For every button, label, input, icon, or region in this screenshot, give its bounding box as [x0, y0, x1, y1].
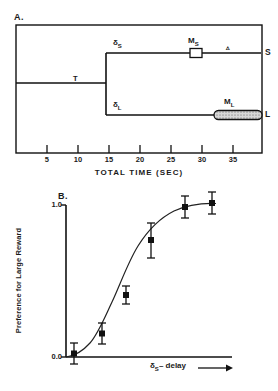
- small-reward-label: MS: [188, 36, 199, 47]
- upper-delay-label: δS: [113, 38, 122, 49]
- figure-container: A.: [0, 0, 278, 391]
- xtick-label-a-2: 15: [99, 155, 119, 164]
- data-point: [123, 292, 129, 298]
- xtick-label-a-1: 10: [68, 155, 88, 164]
- data-point: [209, 200, 215, 206]
- ytick-label-top: 1.0: [40, 200, 62, 209]
- panel-b-xaxis-title: δS– delay: [150, 361, 186, 372]
- large-reward-label: ML: [224, 97, 234, 108]
- data-point: [182, 204, 188, 210]
- xaxis-arrow-icon: [198, 365, 233, 372]
- xtick-label-a-4: 25: [161, 155, 181, 164]
- data-point: [99, 331, 105, 337]
- panel-b: B.: [0, 186, 278, 391]
- panel-a-xticks: [47, 145, 233, 153]
- xtick-label-a-6: 35: [223, 155, 243, 164]
- error-bars: [70, 192, 216, 364]
- xtick-label-a-0: 5: [37, 155, 57, 164]
- trunk-label: T: [73, 74, 78, 83]
- data-point: [148, 237, 154, 243]
- xtick-label-a-3: 20: [130, 155, 150, 164]
- triangle-marker-icon: ▵: [226, 44, 230, 52]
- small-reward-box: [190, 49, 202, 58]
- ytick-label-bottom: 0.0: [40, 352, 62, 361]
- panel-a-xaxis-title: TOTAL TIME (SEC): [0, 168, 278, 177]
- panel-b-yaxis-title: Preference for Large Reward: [14, 211, 23, 351]
- preference-curve: [66, 203, 216, 357]
- data-point: [71, 351, 77, 357]
- lower-endpoint-label: L: [265, 109, 270, 119]
- upper-endpoint-label: S: [265, 47, 271, 57]
- xtick-label-a-5: 30: [192, 155, 212, 164]
- large-reward-bar: [214, 111, 262, 120]
- data-points: [71, 200, 215, 357]
- panel-a: A.: [0, 0, 278, 186]
- lower-delay-label: δL: [113, 100, 122, 111]
